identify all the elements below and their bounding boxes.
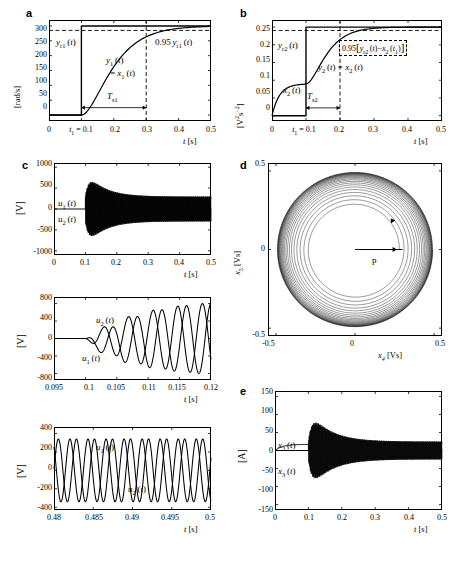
panel-e-xtick: 0.1 [298, 514, 320, 522]
panel-a-xtick: 0.5 [200, 126, 222, 134]
panel-c3-xtick: 0.49 [119, 514, 145, 522]
panel-c2-ytick: 400 [22, 314, 52, 322]
panel-e-xtick: 0.3 [364, 514, 386, 522]
panel-a-xtick-t1: t1 = 0.1 [55, 126, 107, 137]
panel-c2-xtick: 0.115 [161, 384, 193, 392]
panel-a-xaxis-label: t [s] [183, 136, 196, 146]
panel-c3-xtick: 0.5 [198, 514, 222, 522]
panel-c3-yaxis-label: [V] [15, 464, 26, 478]
panel-c3-xtick: 0.495 [154, 514, 186, 522]
panel-c3-ytick: 200 [22, 444, 52, 452]
panel-b-ytick: 0.2 [240, 41, 270, 49]
panel-b-ytick: 0.15 [240, 56, 270, 64]
panel-c1-u1-label: u1 (t) [58, 198, 76, 210]
panel-c2-xaxis-label: t [s] [184, 394, 197, 404]
panel-a-ytick: 0 [18, 103, 47, 111]
panel-c3-xtick: 0.48 [40, 514, 68, 522]
panel-b-xtick: 0.3 [362, 126, 384, 134]
panel-b-settling-time-label: Ts2 [307, 91, 318, 103]
panel-c2-u1-label: u1 (t) [82, 353, 100, 365]
panel-b-ytick: 0.1 [240, 72, 270, 80]
panel-a-ytick: 300 [18, 25, 47, 33]
panel-c1-ytick: -500 [20, 226, 52, 234]
panel-c3-u2-label: u2 (t) [128, 484, 146, 496]
panel-d-xtick: -0.5 [255, 340, 282, 348]
panel-c2-xtick: 0.11 [136, 384, 162, 392]
panel-d-xaxis-label: x4 [Vs] [378, 350, 402, 362]
panel-c1-yaxis-label: [V] [14, 201, 25, 215]
panel-c1-xtick: 0.3 [137, 259, 159, 267]
panel-d-yaxis-label: x5 [Vs] [232, 251, 244, 275]
panel-c1-xtick: 0.2 [105, 259, 127, 267]
panel-c1-ytick: 1000 [20, 160, 52, 168]
panel-c2-xtick: 0.105 [100, 384, 132, 392]
panel-a-xtick: 0.2 [104, 126, 126, 134]
panel-e-xtick: 0.4 [398, 514, 420, 522]
panel-e-xtick: 0 [267, 514, 283, 522]
panel-c1-u2-label: u2 (t) [58, 214, 76, 226]
panel-b-xtick-t1: t1 = 0.1 [278, 126, 330, 137]
panel-c2-u2-label: u2 (t) [96, 315, 114, 327]
panel-a-settling-level-label: 0.95 yr1 (t) [155, 37, 192, 49]
panel-e-xtick: 0.5 [431, 514, 453, 522]
panel-b-letter: b [240, 8, 247, 19]
panel-c2-xtick: 0.095 [38, 384, 70, 392]
panel-d-ytick: -0.5 [238, 331, 265, 339]
panel-a-ytick: 150 [18, 64, 47, 72]
panel-e-ytick: 50 [242, 427, 273, 435]
panel-a-letter: a [26, 8, 32, 19]
panel-d-phase-portrait [268, 163, 442, 336]
panel-d-xtick: 0 [344, 340, 360, 348]
panel-b-xtick: 0.2 [328, 126, 350, 134]
panel-d-xtick: 0.5 [428, 340, 452, 348]
panel-a-ytick: 250 [18, 38, 47, 46]
panel-e-x2-label: x2 (t) [278, 440, 296, 452]
panel-c1-ytick: 500 [20, 181, 52, 189]
panel-c2-xtick: 0.1 [78, 384, 100, 392]
panel-a-reference-label: yr1 (t) [56, 37, 76, 49]
panel-a-xtick: 0.3 [136, 126, 158, 134]
panel-c3-u1-label: u1 (t) [96, 442, 114, 454]
panel-c3-xtick: 0.485 [78, 514, 110, 522]
panel-c3-ytick: 400 [22, 424, 52, 432]
panel-c3-curves [54, 427, 211, 510]
panel-e-ytick: 150 [242, 388, 273, 396]
panel-b-settling-level-label: 0.95[yr2 (t)−x2 (t1)] [339, 40, 407, 56]
panel-a-state-label: = x1 (t) [110, 68, 135, 80]
panel-e-yaxis-label: [A] [236, 449, 247, 463]
panel-c1-xtick: 0.5 [200, 259, 222, 267]
panel-a-xtick: 0.4 [168, 126, 190, 134]
panel-c3-ytick: -200 [22, 484, 52, 492]
panel-b-yaxis-label: [V2s−2] [234, 103, 245, 128]
panel-a-yaxis-label: [rad/s] [12, 86, 22, 108]
panel-e-ytick: 100 [242, 407, 273, 415]
panel-c3-ytick: -400 [22, 504, 52, 512]
panel-c1-xtick: 0.4 [168, 259, 190, 267]
panel-c1-xaxis-label: t [s] [184, 269, 197, 279]
panel-a-settling-time-label: Ts1 [107, 91, 118, 103]
panel-c2-ytick: 800 [22, 294, 52, 302]
panel-e-curves [275, 391, 442, 510]
panel-c1-xtick: 0.1 [74, 259, 96, 267]
panel-c2-curves [54, 297, 211, 380]
panel-c2-xtick: 0.12 [198, 384, 224, 392]
panel-a-output-label: y1 (t) [106, 55, 124, 67]
panel-b-output-label: y2 (t) = x2 (t) [318, 62, 363, 74]
panel-d-point-p-label: p [372, 255, 377, 265]
panel-b-reference-label: yr2 (t) [278, 40, 298, 52]
panel-c2-ytick: -400 [22, 354, 52, 362]
panel-c1-curves [54, 163, 211, 255]
panel-b-ytick: 0.05 [240, 88, 270, 96]
panel-e-x3-label: x3 (t) [278, 466, 296, 478]
panel-c2-yaxis-label: [V] [15, 334, 26, 348]
panel-b-xtick: 0.5 [430, 126, 452, 134]
panel-a-ytick: 50 [18, 90, 47, 98]
panel-c2-ytick: -800 [22, 374, 52, 382]
panel-e-xaxis-label: t [s] [414, 524, 427, 534]
panel-c3-xaxis-label: t [s] [184, 524, 197, 534]
panel-a-ytick: 200 [18, 51, 47, 59]
panel-e-ytick: -50 [242, 467, 273, 475]
panel-b-xtick: 0.4 [396, 126, 418, 134]
panel-c1-xtick: 0 [46, 259, 62, 267]
panel-b-ytick: 0.25 [240, 25, 270, 33]
